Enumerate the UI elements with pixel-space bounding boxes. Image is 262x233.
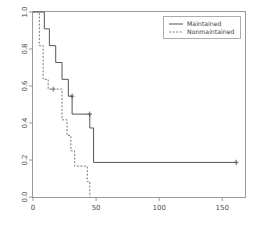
legend-label-nonmaintained: Nonmaintained <box>187 28 234 35</box>
censor-mark-maintained-0 <box>70 94 74 99</box>
legend-label-maintained: Maintained <box>187 20 221 27</box>
y-tick-label-0: 0.0 <box>21 191 29 202</box>
x-tick-label-2: 100 <box>153 204 166 212</box>
y-tick-label-2: 0.4 <box>21 117 29 129</box>
series-layer <box>33 12 236 197</box>
survival-plot-container: 050100150 0.00.20.40.60.81.0 Maintained … <box>0 0 262 233</box>
x-tick-label-1: 50 <box>92 204 101 212</box>
y-tick-label-1: 0.2 <box>21 154 29 165</box>
y-tick-label-5: 1.0 <box>21 6 29 17</box>
censoring-marks-layer <box>51 87 238 165</box>
series-line-nonmaintained <box>33 12 90 197</box>
censor-mark-maintained-2 <box>234 160 238 165</box>
y-tick-label-3: 0.6 <box>21 80 29 92</box>
x-tick-label-0: 0 <box>31 204 35 212</box>
censor-mark-maintained-1 <box>88 112 92 117</box>
legend: Maintained Nonmaintained <box>164 17 241 39</box>
y-axis-tick-labels: 0.00.20.40.60.81.0 <box>21 6 29 202</box>
x-axis-tick-labels: 050100150 <box>31 204 229 212</box>
kaplan-meier-chart: 050100150 0.00.20.40.60.81.0 Maintained … <box>0 0 262 233</box>
y-tick-label-4: 0.8 <box>21 43 29 54</box>
censor-mark-nonmaintained-0 <box>51 87 55 92</box>
x-tick-label-3: 150 <box>216 204 229 212</box>
plot-frame <box>33 12 246 198</box>
